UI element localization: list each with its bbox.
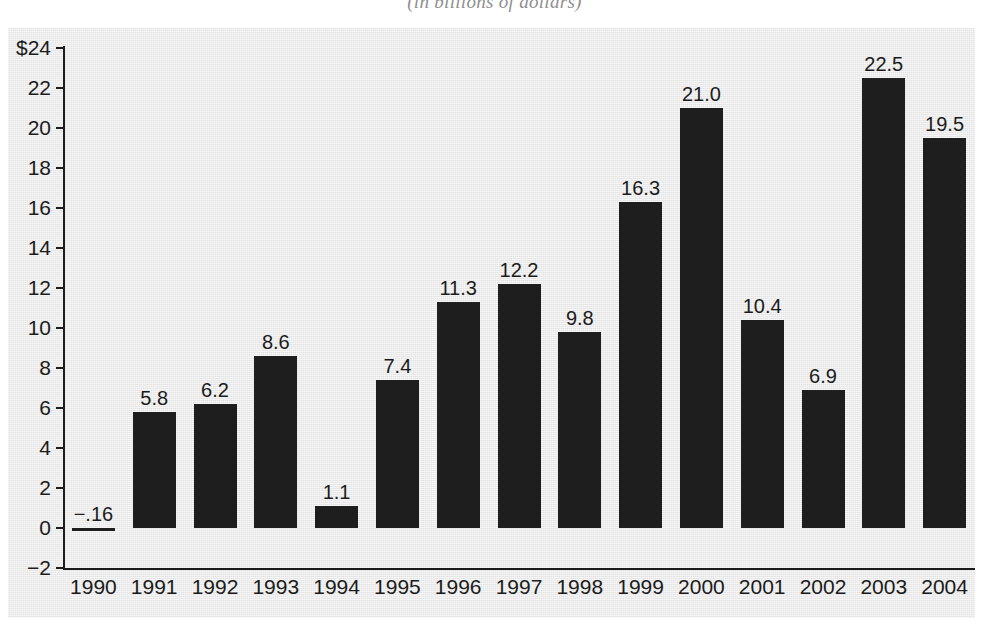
bar-value-label: 16.3 (602, 178, 679, 198)
y-axis-tick-label: 2 (0, 477, 51, 498)
y-axis-tick (56, 487, 64, 489)
bar-value-label: 12.2 (481, 260, 558, 280)
bar-value-label: 1.1 (298, 482, 375, 502)
bar-value-label: 21.0 (663, 84, 740, 104)
bar-value-label: 11.3 (420, 278, 497, 298)
bar-value-label: 19.5 (906, 114, 983, 134)
bar-value-label: 7.4 (359, 356, 436, 376)
y-axis-tick-label: 18 (0, 157, 51, 178)
y-axis-tick (56, 367, 64, 369)
y-axis-tick-label: 12 (0, 277, 51, 298)
bar (376, 380, 419, 528)
y-axis-tick (56, 167, 64, 169)
bar (498, 284, 541, 528)
y-axis-tick-label: −2 (0, 557, 51, 578)
y-axis-tick (56, 327, 64, 329)
x-axis-spine (63, 568, 975, 570)
bar (923, 138, 966, 528)
y-axis-tick-label: 16 (0, 197, 51, 218)
y-axis-tick-label: 0 (0, 517, 51, 538)
bar-value-label: 6.9 (785, 366, 862, 386)
bar-value-label: 9.8 (541, 308, 618, 328)
y-axis-tick (56, 567, 64, 569)
y-axis-tick-label: 22 (0, 77, 51, 98)
bar (741, 320, 784, 528)
y-axis-tick (56, 407, 64, 409)
bar (254, 356, 297, 528)
chart-figure: (in billions of dollars) $24222018161412… (0, 0, 989, 629)
y-axis-tick-label: 10 (0, 317, 51, 338)
bar-value-label: 22.5 (845, 54, 922, 74)
y-axis-tick-label: 8 (0, 357, 51, 378)
y-axis-tick (56, 207, 64, 209)
y-axis-tick (56, 287, 64, 289)
y-axis-spine (63, 46, 65, 570)
bar (437, 302, 480, 528)
bar (133, 412, 176, 528)
x-axis-tick-label: 2004 (908, 576, 981, 597)
y-axis-tick-label: 4 (0, 437, 51, 458)
y-axis-tick-label: 6 (0, 397, 51, 418)
chart-panel (8, 28, 975, 618)
y-axis-tick (56, 127, 64, 129)
y-axis-tick (56, 527, 64, 529)
bar (862, 78, 905, 528)
bar (194, 404, 237, 528)
bar-value-label: 10.4 (724, 296, 801, 316)
bar-value-label: 6.2 (177, 380, 254, 400)
y-axis-tick-label: 20 (0, 117, 51, 138)
bar (802, 390, 845, 528)
bar (315, 506, 358, 528)
chart-subtitle: (in billions of dollars) (0, 0, 989, 13)
y-axis-tick (56, 247, 64, 249)
bar (680, 108, 723, 528)
bar-value-label: −.16 (55, 504, 132, 524)
y-axis-tick-label: 14 (0, 237, 51, 258)
y-axis-tick (56, 447, 64, 449)
bar (72, 528, 115, 531)
y-axis-tick (56, 47, 64, 49)
y-axis-tick (56, 87, 64, 89)
y-axis-tick-label: $24 (0, 37, 51, 58)
bar (558, 332, 601, 528)
bar (619, 202, 662, 528)
bar-value-label: 8.6 (237, 332, 314, 352)
